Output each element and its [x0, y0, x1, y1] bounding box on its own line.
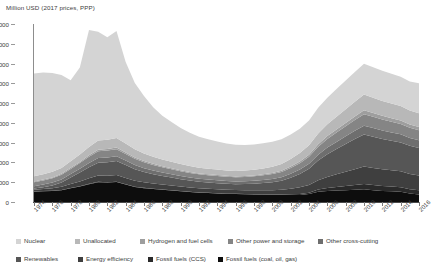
y-axis-tick — [11, 162, 15, 163]
legend-label: Fossil fuels (CCS) — [156, 256, 206, 262]
x-axis-tick-label: 2016 — [417, 198, 432, 213]
legend-row-1: NuclearUnallocatedHydrogen and fuel cell… — [0, 238, 424, 250]
y-axis-tick — [11, 103, 15, 104]
legend-label: Other power and storage — [236, 238, 304, 244]
y-axis-tick-label: 6000 — [0, 80, 9, 87]
legend-item-fossil-fuels-coal-oil-gas[interactable]: Fossil fuels (coal, oil, gas) — [218, 256, 297, 262]
legend-swatch-icon — [140, 239, 145, 244]
legend-row-2: RenewablesEnergy efficiencyFossil fuels … — [0, 256, 424, 268]
legend-item-energy-efficiency[interactable]: Energy efficiency — [78, 256, 133, 262]
y-axis-tick — [11, 143, 15, 144]
stacked-area-svg — [34, 24, 419, 202]
y-axis-tick — [11, 123, 15, 124]
x-axis-labels: 1974197619781980198219841986198819901992… — [0, 206, 424, 234]
y-axis-tick-label: 9000 — [0, 21, 9, 28]
legend-item-hydrogen-and-fuel-cells[interactable]: Hydrogen and fuel cells — [140, 238, 213, 244]
y-axis-tick-label: 4000 — [0, 119, 9, 126]
legend-swatch-icon — [148, 257, 153, 262]
y-axis-tick-label: 3000 — [0, 139, 9, 146]
y-axis-tick-label: 8000 — [0, 40, 9, 47]
legend-label: Fossil fuels (coal, oil, gas) — [226, 256, 297, 262]
legend-swatch-icon — [228, 239, 233, 244]
y-axis-tick — [11, 24, 15, 25]
y-axis-tick — [11, 64, 15, 65]
legend-label: Energy efficiency — [86, 256, 133, 262]
legend-swatch-icon — [16, 257, 21, 262]
legend-label: Hydrogen and fuel cells — [148, 238, 213, 244]
legend-swatch-icon — [218, 257, 223, 262]
y-axis-tick-label: 2000 — [0, 159, 9, 166]
legend-label: Renewables — [24, 256, 58, 262]
y-axis-tick-label: 7000 — [0, 60, 9, 67]
legend-label: Nuclear — [24, 238, 45, 244]
y-axis-tick — [11, 182, 15, 183]
y-axis-tick — [11, 44, 15, 45]
legend-item-unallocated[interactable]: Unallocated — [75, 238, 116, 244]
y-axis-tick — [11, 83, 15, 84]
legend-item-other-power-and-storage[interactable]: Other power and storage — [228, 238, 304, 244]
y-axis-labels: 0100020003000400050006000700080009000 — [0, 0, 34, 226]
legend-label: Other cross-cutting — [326, 238, 378, 244]
y-axis-tick-label: 5000 — [0, 100, 9, 107]
legend-item-fossil-fuels-ccs[interactable]: Fossil fuels (CCS) — [148, 256, 206, 262]
legend-item-nuclear[interactable]: Nuclear — [16, 238, 45, 244]
legend-swatch-icon — [318, 239, 323, 244]
plot-area — [34, 24, 419, 202]
legend-swatch-icon — [16, 239, 21, 244]
legend-item-other-cross-cutting[interactable]: Other cross-cutting — [318, 238, 378, 244]
legend-swatch-icon — [78, 257, 83, 262]
legend-label: Unallocated — [83, 238, 116, 244]
y-axis-tick-label: 1000 — [0, 179, 9, 186]
legend-swatch-icon — [75, 239, 80, 244]
legend-item-renewables[interactable]: Renewables — [16, 256, 58, 262]
